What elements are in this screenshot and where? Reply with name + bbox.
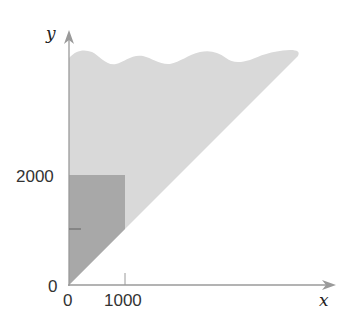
x-tick-label-1000: 1000 [104, 291, 142, 310]
region-diagram: y x 2000 0 0 1000 [0, 0, 358, 322]
x-tick-label-0: 0 [63, 291, 72, 310]
highlighted-rectangle [69, 175, 125, 285]
y-axis-label: y [45, 23, 56, 43]
y-tick-label-2000: 2000 [16, 167, 54, 186]
x-axis-label: x [319, 290, 329, 310]
y-tick-label-0: 0 [48, 277, 57, 296]
